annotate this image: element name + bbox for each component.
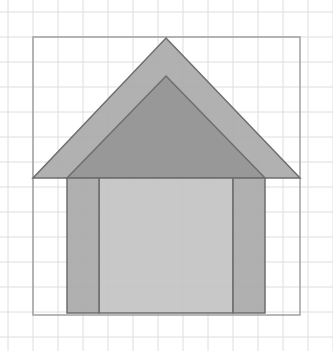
figure-container: House shape on square grid A simple hous…: [0, 0, 333, 351]
right-pillar: [233, 178, 265, 313]
house-geometry-figure: House shape on square grid A simple hous…: [0, 0, 333, 351]
left-pillar: [67, 178, 99, 313]
interior-wall-panel: [99, 178, 233, 313]
